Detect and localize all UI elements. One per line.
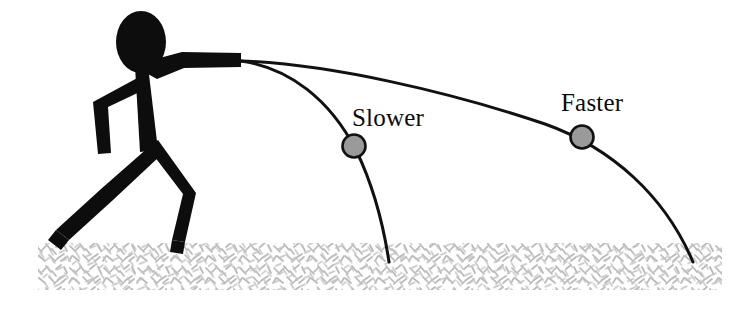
figure-rear-leg [56,146,160,240]
stick-figure-thrower [48,11,241,254]
illustration-canvas: Slower Faster [0,0,746,320]
trajectory-group [241,61,693,262]
slower-trajectory-path [241,61,389,262]
figure-front-leg [148,140,196,242]
slower-ball [343,135,366,158]
slower-label: Slower [352,104,425,131]
ground-hatched-band [38,243,722,290]
figure-front-foot [170,240,185,254]
faster-label: Faster [561,89,624,116]
projectile-illustration: Slower Faster [0,0,746,320]
faster-ball [571,126,594,149]
ground-hatch-layer-2 [38,243,722,290]
